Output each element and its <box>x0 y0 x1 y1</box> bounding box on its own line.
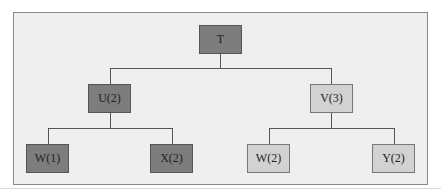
connector <box>110 68 331 69</box>
node-w1: W(1) <box>26 144 69 173</box>
node-u: U(2) <box>88 84 131 113</box>
connector <box>331 112 332 128</box>
connector <box>394 128 395 144</box>
connector <box>220 54 221 68</box>
connector <box>331 68 332 84</box>
node-y: Y(2) <box>372 144 415 173</box>
connector <box>269 128 270 144</box>
connector <box>269 128 394 129</box>
connector <box>110 112 111 128</box>
node-w2: W(2) <box>247 144 290 173</box>
node-v: V(3) <box>310 84 353 113</box>
connector <box>110 68 111 84</box>
node-x: X(2) <box>150 144 193 173</box>
connector <box>48 128 172 129</box>
connector <box>172 128 173 144</box>
connector <box>48 128 49 144</box>
node-t: T <box>199 25 242 54</box>
divider <box>0 188 441 189</box>
